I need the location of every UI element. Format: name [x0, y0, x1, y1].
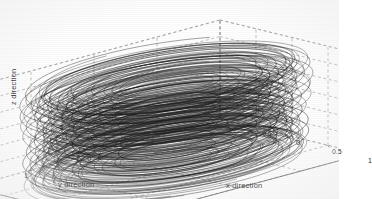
x-tick-neg0p5: -0.5 — [260, 130, 272, 138]
x-axis-title: x direction — [226, 181, 262, 190]
z-axis-title: z direction — [9, 69, 18, 105]
x-tick-0p5: 0.5 — [332, 148, 341, 156]
x-tick-0: 0 — [296, 139, 300, 147]
trajectory-curves — [20, 37, 313, 199]
x-tick-1: 1 — [368, 157, 372, 165]
y-axis-title: y direction — [58, 180, 94, 189]
y-tick-neg1: -1 — [148, 138, 154, 146]
y-tick-1: 1 — [24, 172, 28, 180]
y-tick-neg2: -2 — [211, 121, 217, 129]
x-tick-neg1: -1 — [224, 122, 230, 130]
y-tick-0: 0 — [87, 155, 91, 163]
